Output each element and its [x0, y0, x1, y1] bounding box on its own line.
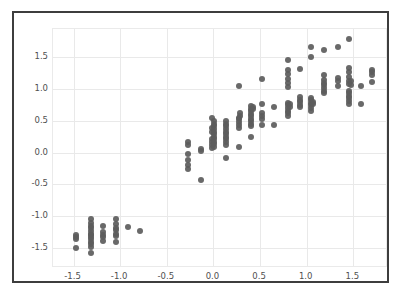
data-point: [137, 228, 143, 234]
data-point: [348, 82, 354, 88]
x-tick-label-5: 1.0: [299, 271, 313, 281]
data-point: [100, 223, 106, 229]
data-point: [259, 76, 265, 82]
data-point: [287, 104, 293, 110]
data-point: [198, 177, 204, 183]
data-point: [335, 44, 341, 50]
figure-canvas: -1.5-1.0-0.50.00.51.01.5 -1.5-1.0-0.50.0…: [14, 13, 387, 281]
x-tick-label-2: -0.5: [158, 271, 175, 281]
y-tick-label-0: -1.5: [26, 242, 48, 252]
data-point: [185, 142, 191, 148]
data-point: [321, 90, 327, 96]
data-point: [223, 155, 229, 161]
y-tick-label-6: 1.5: [26, 51, 48, 61]
data-point: [308, 44, 314, 50]
data-point: [73, 245, 79, 251]
gridline-y-2: [53, 184, 386, 185]
data-point: [310, 101, 316, 107]
data-point: [271, 122, 277, 128]
data-point: [248, 123, 254, 129]
x-tick-label-3: 0.0: [206, 271, 220, 281]
x-tick-label-4: 0.5: [252, 271, 266, 281]
data-point: [237, 113, 243, 119]
data-point: [308, 108, 314, 114]
data-point: [250, 106, 256, 112]
data-point: [211, 144, 217, 150]
data-point: [185, 166, 191, 172]
data-point: [113, 239, 119, 245]
data-point: [358, 101, 364, 107]
data-point: [259, 101, 265, 107]
y-tick-label-1: -1.0: [26, 210, 48, 220]
y-tick-label-4: 0.5: [26, 115, 48, 125]
x-tick-label-1: -1.0: [111, 271, 128, 281]
gridline-y-6: [53, 57, 386, 58]
data-point: [308, 54, 314, 60]
figure-frame: -1.5-1.0-0.50.00.51.01.5 -1.5-1.0-0.50.0…: [12, 11, 389, 283]
data-point: [321, 47, 327, 53]
y-tick-label-3: 0.0: [26, 147, 48, 157]
gridline-y-3: [53, 153, 386, 154]
data-point: [88, 250, 94, 256]
data-point: [346, 101, 352, 107]
data-point: [236, 83, 242, 89]
data-point: [369, 72, 375, 78]
data-point: [297, 104, 303, 110]
gridline-x-0: [74, 29, 75, 266]
gridline-y-1: [53, 216, 386, 217]
data-point: [73, 236, 79, 242]
y-tick-label-2: -0.5: [26, 178, 48, 188]
gridline-x-6: [353, 29, 354, 266]
gridline-y-0: [53, 248, 386, 249]
data-point: [271, 104, 277, 110]
scatter-plot-area: [52, 28, 387, 267]
y-tick-label-5: 1.0: [26, 83, 48, 93]
data-point: [248, 134, 254, 140]
data-point: [297, 66, 303, 72]
data-point: [346, 36, 352, 42]
gridline-x-4: [260, 29, 261, 266]
gridline-y-5: [53, 89, 386, 90]
data-point: [185, 151, 191, 157]
data-point: [259, 122, 265, 128]
data-point: [285, 84, 291, 90]
data-point: [236, 144, 242, 150]
gridline-x-1: [120, 29, 121, 266]
data-point: [100, 238, 106, 244]
data-point: [223, 142, 229, 148]
x-tick-label-0: -1.5: [64, 271, 81, 281]
gridline-x-2: [167, 29, 168, 266]
gridline-x-5: [307, 29, 308, 266]
data-point: [335, 83, 341, 89]
data-point: [285, 57, 291, 63]
data-point: [358, 83, 364, 89]
data-point: [125, 224, 131, 230]
data-point: [236, 125, 242, 131]
data-point: [285, 113, 291, 119]
x-tick-label-6: 1.5: [346, 271, 360, 281]
data-point: [369, 79, 375, 85]
gridline-y-4: [53, 121, 386, 122]
data-point: [113, 233, 119, 239]
